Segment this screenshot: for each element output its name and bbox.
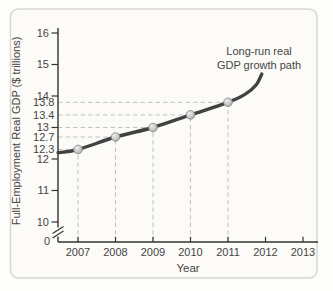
x-tick-label-2007: 2007 xyxy=(66,246,90,258)
data-point-2009 xyxy=(149,123,158,132)
y-tick-label-15: 15 xyxy=(37,58,49,70)
y-guide-label-13.4: 13.4 xyxy=(33,109,54,121)
y-guide-label-12.3: 12.3 xyxy=(33,143,54,155)
y-tick-label-10: 10 xyxy=(37,216,49,228)
x-tick-label-2013: 2013 xyxy=(291,246,315,258)
x-tick-label-2010: 2010 xyxy=(178,246,202,258)
y-tick-label-16: 16 xyxy=(37,27,49,39)
x-tick-label-2011: 2011 xyxy=(216,246,240,258)
data-point-2008 xyxy=(111,133,120,142)
x-tick-label-2009: 2009 xyxy=(141,246,165,258)
y-guide-label-12.7: 12.7 xyxy=(33,131,54,143)
data-point-2011 xyxy=(224,98,233,107)
data-point-2010 xyxy=(186,111,195,120)
gdp-growth-chart: 2007200820092010201120122013161514131211… xyxy=(0,0,333,291)
y-tick-label-11: 11 xyxy=(38,184,49,196)
data-point-2007 xyxy=(74,145,83,154)
curve-annotation-line1: Long-run real xyxy=(226,45,291,57)
y-axis-title: Full-Employment Real GDP ($ trillions) xyxy=(10,37,22,226)
x-tick-label-2008: 2008 xyxy=(103,246,127,258)
curve-annotation-line2: GDP growth path xyxy=(217,59,301,71)
x-tick-label-2012: 2012 xyxy=(253,246,277,258)
y-guide-label-13.8: 13.8 xyxy=(33,96,54,108)
x-axis-title: Year xyxy=(176,262,199,274)
figure: 2007200820092010201120122013161514131211… xyxy=(0,0,333,291)
origin-label: 0 xyxy=(44,235,50,247)
